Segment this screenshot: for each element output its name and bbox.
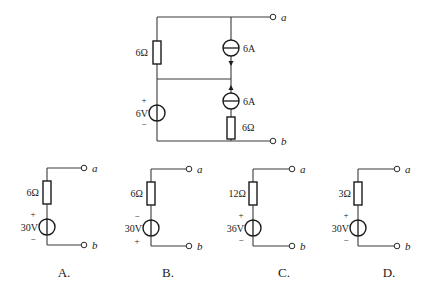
plus-sign: + bbox=[141, 95, 146, 105]
minus-sign: − bbox=[141, 119, 146, 129]
terminal-a-label: a bbox=[197, 163, 203, 175]
option-c[interactable]: a b 12Ω + 36V − C. bbox=[227, 163, 306, 280]
terminal-a-label: a bbox=[405, 163, 411, 175]
resistor-6ohm-left bbox=[153, 41, 161, 64]
resistor-6ohm-right bbox=[227, 117, 235, 139]
terminal-b-label: b bbox=[197, 240, 203, 252]
resistor-label: 6Ω bbox=[131, 188, 143, 199]
terminal-b bbox=[394, 243, 400, 249]
resistor-label: 6Ω bbox=[27, 187, 39, 198]
terminal-b-label: b bbox=[281, 135, 287, 147]
terminal-a-label: a bbox=[300, 163, 306, 175]
arrow-down-icon bbox=[229, 61, 234, 66]
top-sign: + bbox=[238, 210, 243, 220]
terminal-b-label: b bbox=[300, 240, 306, 252]
voltage-label: 30V bbox=[21, 222, 39, 233]
terminal-b bbox=[289, 243, 295, 249]
resistor-label: 12Ω bbox=[229, 188, 246, 199]
resistor-label: 3Ω bbox=[339, 188, 351, 199]
option-label: D. bbox=[383, 265, 396, 280]
terminal-b-label: b bbox=[92, 239, 98, 251]
terminal-a bbox=[81, 165, 87, 171]
voltage-label: 6V bbox=[136, 108, 149, 119]
arrow-up-icon bbox=[229, 85, 234, 90]
resistor-label: 6Ω bbox=[242, 122, 254, 133]
current-source-label: 6A bbox=[243, 43, 256, 54]
option-a[interactable]: a b 6Ω + 30V − A. bbox=[21, 162, 98, 280]
circuit-diagram: 6Ω + 6V − 6A 6A 6Ω a b bbox=[0, 0, 433, 292]
terminal-a bbox=[289, 166, 295, 172]
terminal-b-label: b bbox=[405, 240, 411, 252]
bottom-sign: − bbox=[343, 235, 348, 245]
resistor bbox=[354, 182, 362, 205]
top-sign: + bbox=[30, 209, 35, 219]
bottom-sign: + bbox=[134, 236, 139, 246]
terminal-b bbox=[81, 242, 87, 248]
top-sign: − bbox=[134, 211, 139, 221]
terminal-a-label: a bbox=[281, 11, 287, 23]
voltage-label: 30V bbox=[332, 223, 350, 234]
main-circuit: 6Ω + 6V − 6A 6A 6Ω a b bbox=[136, 11, 287, 147]
current-source-label: 6A bbox=[243, 96, 256, 107]
option-label: A. bbox=[58, 265, 71, 280]
option-label: C. bbox=[278, 265, 290, 280]
resistor bbox=[249, 182, 257, 205]
terminal-a bbox=[270, 14, 276, 20]
option-label: B. bbox=[162, 265, 174, 280]
top-sign: + bbox=[343, 210, 348, 220]
terminal-a bbox=[394, 166, 400, 172]
terminal-a bbox=[186, 166, 192, 172]
voltage-label: 30V bbox=[125, 223, 143, 234]
bottom-sign: − bbox=[30, 234, 35, 244]
option-b[interactable]: a b 6Ω − 30V + B. bbox=[125, 163, 203, 280]
resistor bbox=[43, 181, 51, 204]
resistor bbox=[147, 182, 155, 205]
voltage-label: 36V bbox=[227, 223, 245, 234]
bottom-sign: − bbox=[238, 235, 243, 245]
terminal-a-label: a bbox=[92, 162, 98, 174]
terminal-b bbox=[270, 138, 276, 144]
terminal-b bbox=[186, 243, 192, 249]
resistor-label: 6Ω bbox=[136, 47, 148, 58]
option-d[interactable]: a b 3Ω + 30V − D. bbox=[332, 163, 411, 280]
